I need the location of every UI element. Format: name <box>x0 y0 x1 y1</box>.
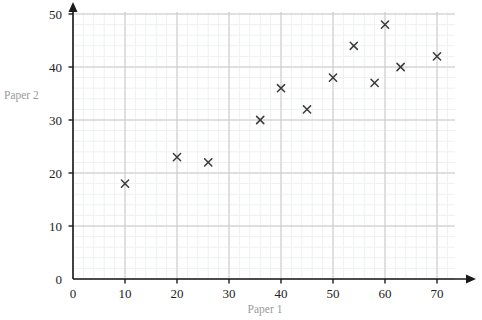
x-axis-tick-label: 70 <box>431 286 444 301</box>
major-gridlines <box>73 12 455 279</box>
y-axis-tick-label: 40 <box>49 60 62 75</box>
x-axis-tick-label: 60 <box>379 286 392 301</box>
x-axis-tick-label: 50 <box>327 286 340 301</box>
y-axis-tick-label: 20 <box>49 166 62 181</box>
axis-ticks <box>69 14 438 284</box>
x-axis-title: Paper 1 <box>248 303 283 316</box>
x-axis-tick-label: 40 <box>275 286 288 301</box>
scatter-plot-figure: 01020304050607001020304050 Paper 1 Paper… <box>0 0 482 320</box>
axis-tick-labels: 01020304050607001020304050 <box>49 7 444 302</box>
axes <box>69 2 477 284</box>
chart-canvas: 01020304050607001020304050 Paper 1 Paper… <box>0 0 482 320</box>
y-axis-title: Paper 2 <box>4 89 39 102</box>
y-axis-tick-label: 0 <box>56 272 63 287</box>
x-axis-tick-label: 10 <box>119 286 132 301</box>
minor-gridlines <box>73 12 455 279</box>
x-axis-tick-label: 0 <box>70 286 77 301</box>
x-axis-tick-label: 30 <box>223 286 236 301</box>
y-axis-tick-label: 30 <box>49 113 62 128</box>
y-axis-tick-label: 50 <box>49 7 62 22</box>
x-axis-arrowhead <box>466 275 476 284</box>
x-axis-tick-label: 20 <box>171 286 184 301</box>
y-axis-tick-label: 10 <box>49 219 62 234</box>
y-axis-arrowhead <box>69 2 78 12</box>
